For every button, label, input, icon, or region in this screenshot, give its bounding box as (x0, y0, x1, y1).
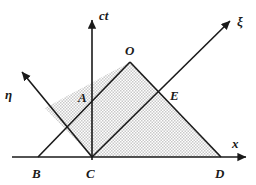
point-label-o: O (125, 43, 135, 58)
eta-axis-label: η (5, 87, 12, 102)
point-label-b: B (31, 166, 41, 181)
point-label-a: A (77, 90, 87, 105)
point-label-e: E (169, 88, 179, 103)
ct-axis-label: ct (99, 8, 109, 23)
point-label-c: C (86, 166, 95, 181)
spacetime-diagram-figure: ct x ξ η O A E B C D (0, 0, 256, 185)
shaded-causal-region (45, 62, 221, 157)
x-axis-label: x (231, 136, 239, 151)
point-label-d: D (214, 166, 225, 181)
diagram-canvas: ct x ξ η O A E B C D (0, 0, 256, 185)
xi-axis-label: ξ (237, 14, 243, 29)
